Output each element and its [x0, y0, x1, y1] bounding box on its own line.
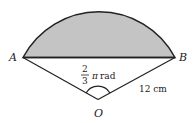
radius-label: 12 cm: [139, 84, 167, 94]
angle-unit: rad: [100, 71, 116, 81]
pi-symbol: π: [91, 71, 99, 81]
angle-denominator: 3: [82, 76, 88, 86]
shaded-segment: [23, 12, 175, 58]
sector-diagram: A B O 2 3 π rad 12 cm: [0, 0, 194, 123]
angle-arc: [86, 86, 110, 93]
label-a: A: [8, 51, 17, 64]
label-o: O: [94, 107, 103, 120]
label-b: B: [178, 51, 187, 64]
angle-numerator: 2: [82, 64, 88, 74]
